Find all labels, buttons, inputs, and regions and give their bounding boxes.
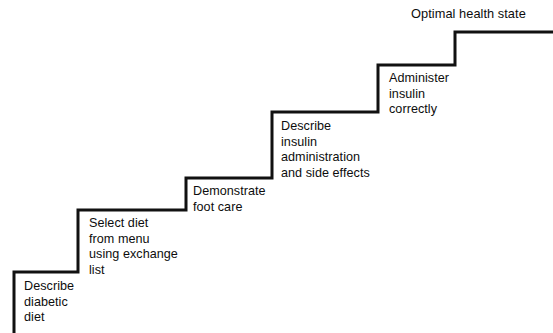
step-label-describe-insulin-administration: Describe insulin administration and side… [281,119,370,181]
staircase-diagram: Describe diabetic diet Select diet from … [0,0,553,333]
staircase-step-path [14,32,553,333]
step-label-select-diet-from-menu: Select diet from menu using exchange lis… [89,216,178,278]
step-label-describe-diabetic-diet: Describe diabetic diet [24,279,74,326]
staircase-path-graphic [0,0,553,333]
step-label-demonstrate-foot-care: Demonstrate foot care [193,184,266,215]
step-label-optimal-health-state: Optimal health state [411,6,526,22]
step-label-administer-insulin-correctly: Administer insulin correctly [389,71,449,118]
